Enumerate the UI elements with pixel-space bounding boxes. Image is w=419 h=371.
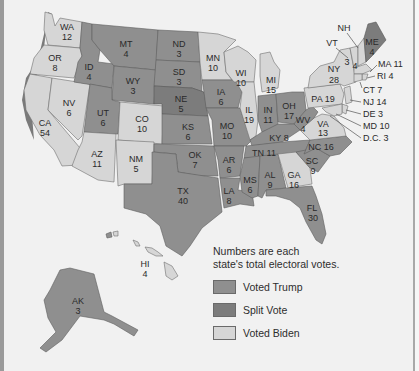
legend-item-biden: Voted Biden	[213, 325, 353, 340]
svg-text:4: 4	[142, 269, 147, 279]
svg-text:SC: SC	[306, 156, 319, 166]
svg-text:NJ 14: NJ 14	[363, 97, 387, 107]
svg-text:4: 4	[300, 124, 305, 134]
svg-text:FL: FL	[307, 203, 318, 213]
svg-text:D.C. 3: D.C. 3	[363, 133, 389, 143]
svg-text:VT: VT	[326, 38, 338, 48]
svg-text:NC 16: NC 16	[308, 142, 334, 152]
state-NJ[interactable]	[344, 86, 352, 104]
state-AK[interactable]	[40, 268, 138, 352]
svg-text:3: 3	[344, 57, 349, 67]
svg-text:MD 10: MD 10	[363, 121, 390, 131]
state-HI[interactable]	[164, 262, 178, 280]
svg-text:MN: MN	[206, 53, 220, 63]
legend-item-trump: Voted Trump	[213, 279, 353, 294]
legend-note: Numbers are each state's total electoral…	[213, 245, 353, 271]
svg-text:54: 54	[40, 128, 50, 138]
svg-text:GA: GA	[287, 170, 300, 180]
legend-swatch-trump	[213, 280, 236, 294]
svg-text:4: 4	[352, 61, 357, 71]
map-legend: Numbers are each state's total electoral…	[213, 245, 353, 340]
svg-text:NH: NH	[338, 23, 351, 33]
svg-text:30: 30	[308, 213, 318, 223]
svg-text:8: 8	[226, 196, 231, 206]
svg-text:RI 4: RI 4	[377, 71, 394, 81]
svg-text:UT: UT	[97, 108, 109, 118]
hawaii-island-kauai	[113, 231, 118, 236]
svg-text:15: 15	[266, 85, 276, 95]
svg-text:7: 7	[192, 160, 197, 170]
hawaii-island-maui	[145, 247, 163, 256]
svg-text:19: 19	[244, 115, 254, 125]
svg-text:13: 13	[318, 128, 328, 138]
state-DE[interactable]	[342, 104, 348, 114]
svg-text:3: 3	[75, 306, 80, 316]
us-electoral-map: WA12 OR8 CA54 NV6 ID4 MT4 WY3 UT6 AZ11 C…	[0, 0, 419, 371]
svg-text:NY: NY	[328, 64, 341, 74]
svg-text:11: 11	[92, 159, 101, 169]
svg-text:LA: LA	[223, 186, 234, 196]
svg-text:OH: OH	[282, 101, 296, 111]
svg-text:28: 28	[329, 75, 339, 85]
svg-text:MI: MI	[266, 75, 276, 85]
state-CT[interactable]	[354, 74, 362, 82]
svg-text:IL: IL	[245, 105, 253, 115]
svg-text:8: 8	[52, 63, 57, 73]
legend-note-line1: Numbers are each	[213, 245, 353, 258]
svg-text:3: 3	[130, 86, 135, 96]
svg-text:3: 3	[176, 49, 181, 59]
svg-text:5: 5	[133, 164, 138, 174]
svg-text:10: 10	[208, 63, 218, 73]
svg-text:DE 3: DE 3	[363, 109, 383, 119]
svg-text:OK: OK	[188, 150, 201, 160]
svg-text:CO: CO	[135, 114, 149, 124]
svg-text:10: 10	[222, 131, 232, 141]
svg-text:6: 6	[218, 97, 223, 107]
svg-text:AZ: AZ	[91, 149, 103, 159]
svg-text:16: 16	[289, 180, 299, 190]
svg-text:6: 6	[226, 165, 231, 175]
svg-text:WI: WI	[236, 68, 247, 78]
svg-text:AL: AL	[264, 170, 275, 180]
svg-text:WA: WA	[60, 22, 74, 32]
svg-text:MT: MT	[120, 39, 133, 49]
svg-text:MS: MS	[243, 175, 257, 185]
svg-text:17: 17	[284, 111, 294, 121]
legend-item-split: Split Vote	[213, 302, 353, 317]
svg-text:PA 19: PA 19	[311, 94, 334, 104]
svg-text:4: 4	[123, 49, 128, 59]
svg-text:MO: MO	[220, 121, 235, 131]
svg-text:9: 9	[267, 180, 272, 190]
svg-text:CT 7: CT 7	[363, 85, 382, 95]
state-RI[interactable]	[362, 74, 368, 80]
svg-text:10: 10	[137, 124, 147, 134]
svg-text:KS: KS	[182, 122, 194, 132]
legend-label-split: Split Vote	[243, 304, 287, 316]
svg-text:CA: CA	[39, 118, 52, 128]
svg-text:TN 11: TN 11	[252, 148, 276, 158]
svg-text:10: 10	[236, 78, 246, 88]
hawaii-island-niihau	[106, 232, 112, 238]
svg-text:TX: TX	[177, 186, 189, 196]
svg-text:4: 4	[86, 72, 91, 82]
svg-text:NE: NE	[175, 94, 188, 104]
legend-swatch-biden	[213, 326, 236, 340]
svg-text:MA 11: MA 11	[378, 59, 403, 69]
svg-text:AR: AR	[223, 155, 236, 165]
svg-text:WY: WY	[126, 76, 141, 86]
svg-text:ID: ID	[85, 62, 95, 72]
svg-text:40: 40	[178, 196, 188, 206]
hawaii-island-oahu	[133, 240, 140, 246]
svg-text:IA: IA	[217, 87, 226, 97]
legend-label-biden: Voted Biden	[243, 327, 300, 339]
svg-text:AK: AK	[72, 296, 84, 306]
svg-text:ND: ND	[173, 39, 186, 49]
svg-text:6: 6	[66, 108, 71, 118]
svg-text:NM: NM	[129, 154, 143, 164]
legend-label-trump: Voted Trump	[243, 281, 303, 293]
svg-text:HI: HI	[141, 259, 150, 269]
svg-text:12: 12	[62, 32, 72, 42]
legend-note-line2: state's total electoral votes.	[213, 258, 353, 271]
svg-text:6: 6	[185, 132, 190, 142]
svg-text:SD: SD	[173, 67, 186, 77]
